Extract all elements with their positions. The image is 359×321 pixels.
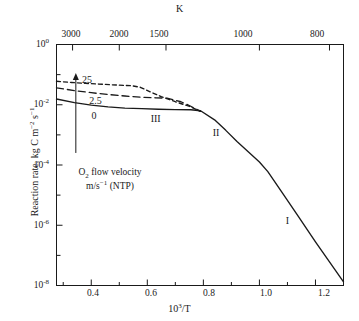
plot-frame [57, 45, 344, 286]
plot-area [0, 0, 359, 321]
annotation-arrow-head [73, 73, 79, 80]
data-curve-0 [57, 99, 344, 282]
figure-container: K 3000 2000 1500 1000 800 0.4 0.6 0.8 1.… [0, 0, 359, 321]
